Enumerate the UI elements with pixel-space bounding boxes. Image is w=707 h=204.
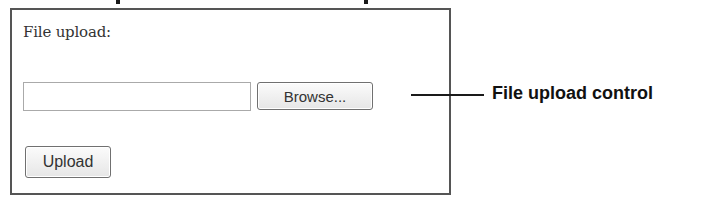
file-upload-label: File upload: (23, 23, 111, 41)
callout-label: File upload control (492, 83, 653, 104)
cropped-heading-fragment (364, 0, 368, 4)
upload-button[interactable]: Upload (25, 146, 111, 178)
file-path-input[interactable] (23, 82, 251, 111)
cropped-heading-fragment (116, 0, 120, 4)
callout-line (411, 94, 484, 96)
file-upload-panel: File upload: Browse... Upload (10, 8, 451, 195)
browse-button[interactable]: Browse... (257, 82, 373, 110)
